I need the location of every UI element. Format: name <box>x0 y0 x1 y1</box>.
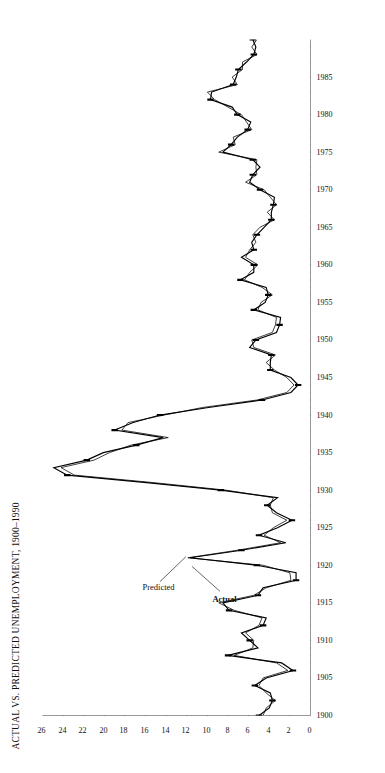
y-tick-label: 20 <box>96 726 110 734</box>
y-tick-label: 4 <box>261 726 275 734</box>
actual-marker-ticks <box>64 39 301 715</box>
axes-group <box>42 39 310 715</box>
y-tick-label: 6 <box>240 726 254 734</box>
y-tick-label: 18 <box>116 726 130 734</box>
x-tick-label: 1920 <box>313 561 335 569</box>
chart-title: ACTUAL VS. PREDICTED UNEMPLOYMENT, 1900–… <box>10 502 20 749</box>
chart-plot-svg <box>42 39 310 715</box>
y-tick-label: 24 <box>55 726 69 734</box>
y-tick-label: 12 <box>178 726 192 734</box>
x-tick-label: 1980 <box>313 110 335 118</box>
x-tick-label: 1935 <box>313 448 335 456</box>
x-tick-label: 1930 <box>313 486 335 494</box>
rotated-figure-container: ACTUAL VS. PREDICTED UNEMPLOYMENT, 1900–… <box>0 0 385 773</box>
y-tick-label: 26 <box>34 726 48 734</box>
x-tick-label: 1900 <box>313 711 335 719</box>
y-tick-label: 16 <box>137 726 151 734</box>
x-tick-label: 1960 <box>313 260 335 268</box>
y-tick-label: 10 <box>199 726 213 734</box>
x-tick-label: 1945 <box>313 373 335 381</box>
y-tick-label: 22 <box>75 726 89 734</box>
plot-area: 1900190519101915192019251930193519401945… <box>42 39 310 715</box>
x-tick-label: 1950 <box>313 335 335 343</box>
x-tick-label: 1955 <box>313 298 335 306</box>
y-tick-label: 14 <box>158 726 172 734</box>
x-tick-label: 1965 <box>313 223 335 231</box>
y-tick-label: 0 <box>302 726 316 734</box>
series-line-predicted <box>61 39 294 715</box>
x-tick-label: 1910 <box>313 636 335 644</box>
x-tick-label: 1970 <box>313 185 335 193</box>
y-tick-label: 2 <box>281 726 295 734</box>
x-tick-label: 1905 <box>313 673 335 681</box>
x-tick-label: 1925 <box>313 523 335 531</box>
annotation-actual: Actual <box>212 594 236 604</box>
x-tick-label: 1915 <box>313 598 335 606</box>
x-tick-label: 1985 <box>313 73 335 81</box>
annotation-predicted: Predicted <box>142 582 174 592</box>
x-tick-label: 1940 <box>313 411 335 419</box>
x-tick-label: 1975 <box>313 148 335 156</box>
y-tick-label: 8 <box>220 726 234 734</box>
series-line-actual <box>53 39 297 715</box>
chart-figure: ACTUAL VS. PREDICTED UNEMPLOYMENT, 1900–… <box>0 0 385 773</box>
